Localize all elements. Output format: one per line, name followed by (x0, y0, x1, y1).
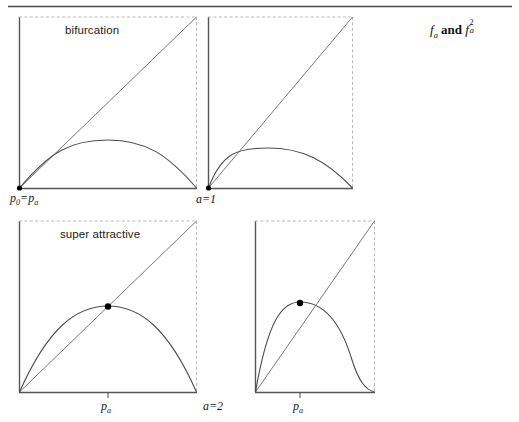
panel-top-right-diagonal (209, 17, 353, 188)
panel-bottom-right (255, 221, 375, 398)
param-equals-top: = (202, 192, 210, 206)
panel-bottom-right-tangency-dot (297, 300, 303, 306)
param-value-bottom: 2 (217, 399, 223, 413)
formula-f-subscript: a (434, 30, 438, 40)
fixed-point-pa-sub: a (34, 198, 38, 207)
panel-bottom-right-curve-fa2 (256, 302, 375, 392)
panel-bottom-right-marker-label: pa (293, 399, 303, 415)
param-value-top: 1 (210, 192, 216, 206)
marker-pa-sub-left: a (107, 406, 111, 415)
panel-bottom-right-parameter-label: a=2 (203, 399, 223, 414)
panel-top-left-curve-fa (20, 140, 197, 188)
panel-bottom-left-marker-label: pa (101, 399, 111, 415)
panel-top-right-parameter-label: a=1 (196, 192, 216, 207)
panel-bottom-left-curve-fa (20, 306, 197, 392)
panel-top-right (206, 17, 353, 191)
figure-root: bifurcation p0=pa a=1 super attractive p… (0, 0, 519, 422)
panel-bottom-right-diagonal (256, 221, 375, 392)
param-equals-bottom: = (209, 399, 217, 413)
formula-conjunction: and (441, 22, 462, 37)
panel-top-left-title: bifurcation (65, 24, 119, 36)
formula-f2-symbol: f (465, 22, 469, 37)
panel-bottom-left (19, 221, 197, 398)
panel-top-left-x-axis-label: p0=pa (10, 191, 38, 207)
panel-top-right-origin-dot (206, 185, 211, 190)
caption-formula: fa and f2a (430, 22, 473, 40)
panel-top-right-curve-fa2 (209, 148, 353, 188)
formula-f-squared: f2a (465, 22, 473, 38)
panel-top-left (17, 17, 197, 191)
panel-bottom-left-tangency-dot (105, 303, 111, 309)
marker-pa-sub-right: a (299, 406, 303, 415)
figure-canvas (0, 0, 519, 422)
panel-bottom-left-title: super attractive (60, 228, 140, 240)
panel-top-left-diagonal (20, 17, 197, 188)
panel-top-left-origin-dot (17, 185, 22, 190)
formula-f2-subscript: a (470, 25, 474, 35)
fixed-point-equals: = (20, 191, 28, 205)
